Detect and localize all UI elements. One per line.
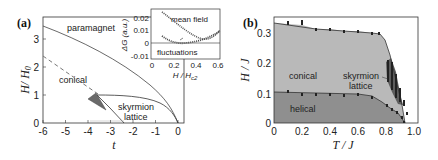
svg-text:0.6: 0.6 [351,126,365,137]
svg-text:0.2: 0.2 [295,126,309,137]
svg-text:-2: -2 [129,126,138,137]
label-lattice-b: lattice [349,81,373,91]
svg-text:0: 0 [271,126,277,137]
panel-b-ylabel: H / J [238,58,252,83]
panel-b: (b) conical skyrmion lattice helical [238,16,421,152]
inset-xlabel: H / Hc2 [173,71,198,81]
svg-text:2: 2 [33,62,39,73]
label-skyrmion-b: skyrmion [343,71,379,81]
svg-text:1: 1 [33,90,39,101]
svg-text:0: 0 [33,118,39,129]
svg-text:0: 0 [265,118,271,129]
panel-a: (a) paramagnet conical skyrmion lattice … [17,9,224,152]
label-conical-b: conical [289,71,317,81]
panel-b-label: (b) [243,16,258,30]
svg-text:-5: -5 [61,126,70,137]
inset-fluctuations-label: fluctuations [157,48,197,57]
label-paramagnet: paramagnet [67,23,116,33]
svg-text:1.0: 1.0 [407,126,421,137]
svg-text:0.3: 0.3 [257,28,271,39]
panel-a-ylabel: H/ H0 [18,66,33,95]
inset: mean field fluctuations 0.02 0.01 0 -0.0… [120,9,224,81]
panel-b-yticks: 0 0.1 0.2 0.3 [257,28,271,129]
panel-a-yticks: 0 1 2 3 [33,34,46,129]
svg-text:3: 3 [33,34,39,45]
svg-text:0.4: 0.4 [190,61,202,70]
svg-text:H/ H0: H/ H0 [18,66,33,95]
svg-text:0.02: 0.02 [133,14,149,23]
inset-mean-field-label: mean field [171,15,208,24]
svg-text:-6: -6 [39,126,48,137]
inset-ylabel: ΔG (a.u.) [120,18,129,52]
panel-b-xlabel: T / J [332,138,354,152]
label-lattice-a: lattice [124,112,148,122]
svg-text:0: 0 [150,61,155,70]
svg-text:0.8: 0.8 [379,126,393,137]
svg-text:0: 0 [145,39,150,48]
svg-text:0.6: 0.6 [212,61,224,70]
panel-a-xlabel: t [112,138,116,152]
svg-text:0.2: 0.2 [257,58,271,69]
svg-text:-3: -3 [106,126,115,137]
svg-text:0.2: 0.2 [168,61,180,70]
svg-text:-1: -1 [151,126,160,137]
svg-text:0.1: 0.1 [257,89,271,100]
label-conical-a: conical [59,75,87,85]
label-skyrmion-a: skyrmion [118,102,154,112]
svg-text:0.4: 0.4 [323,126,337,137]
svg-text:0.01: 0.01 [133,26,149,35]
svg-text:-4: -4 [84,126,93,137]
svg-text:-0.01: -0.01 [131,52,150,61]
panel-a-label: (a) [17,16,31,30]
panel-b-xticks: 0 0.2 0.4 0.6 0.8 1.0 [271,126,421,137]
svg-text:0: 0 [175,126,181,137]
panel-a-xticks: -6 -5 -4 -3 -2 -1 0 [39,120,182,137]
figure: (a) paramagnet conical skyrmion lattice … [0,0,438,160]
label-helical-b: helical [290,104,316,114]
